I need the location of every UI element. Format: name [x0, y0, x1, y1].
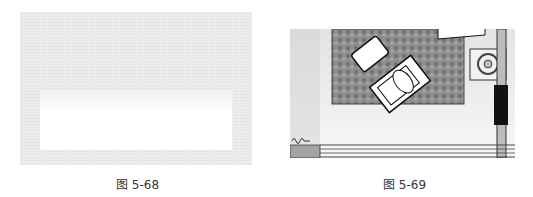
- white-gradient-panel: [40, 90, 232, 150]
- figure-caption: 图 5-68: [116, 175, 159, 192]
- figure-5-68-image: [20, 12, 252, 165]
- floor-plan-drawing: [290, 29, 515, 158]
- figure-caption: 图 5-69: [383, 175, 426, 192]
- figure-5-69-image: [290, 29, 515, 158]
